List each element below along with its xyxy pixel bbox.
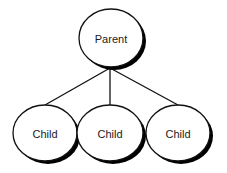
child-node-label: Child (32, 128, 57, 140)
connectors (45, 68, 178, 105)
hierarchy-diagram: Parent Child Child Child (0, 0, 227, 173)
child-node-label: Child (165, 128, 190, 140)
child-node: Child (13, 105, 80, 164)
parent-node: Parent (79, 9, 146, 70)
child-node-label: Child (97, 128, 122, 140)
connector-right (110, 68, 178, 105)
parent-node-label: Parent (95, 33, 127, 45)
child-node: Child (146, 105, 213, 164)
connector-left (45, 68, 110, 105)
child-node: Child (77, 105, 146, 164)
